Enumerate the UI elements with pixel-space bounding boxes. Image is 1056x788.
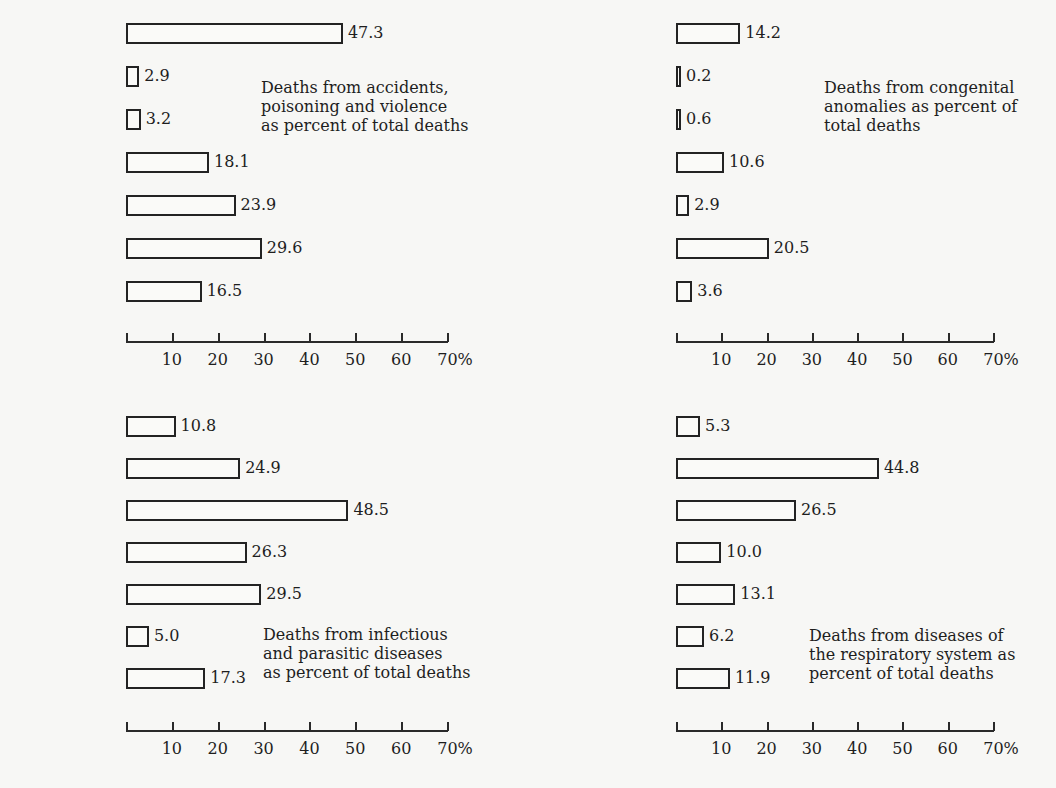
- x-axis-tick-label: 10: [711, 739, 731, 759]
- x-axis-tick: [264, 333, 266, 342]
- x-axis-tick: [355, 722, 357, 731]
- bar: [126, 416, 176, 437]
- x-axis-tick-label: 60: [938, 739, 958, 759]
- x-axis-tick-label: 10: [162, 739, 182, 759]
- x-axis-tick: [218, 333, 220, 342]
- bar-value-label: 3.2: [146, 109, 171, 129]
- caption-line: Deaths from accidents,: [261, 78, 469, 97]
- bar: [126, 152, 209, 173]
- bar: [126, 66, 139, 87]
- x-axis-tick-label: 50: [892, 350, 912, 370]
- bar: [676, 542, 721, 563]
- caption-line: total deaths: [824, 116, 1017, 135]
- bar-value-label: 26.3: [252, 542, 288, 562]
- x-axis-tick: [902, 722, 904, 731]
- bar-value-label: 0.6: [686, 109, 711, 129]
- x-axis-tick: [902, 333, 904, 342]
- x-axis-tick-label: 70%: [437, 350, 473, 370]
- x-axis-tick-label: 20: [756, 350, 776, 370]
- bar: [126, 668, 205, 689]
- bar: [676, 66, 681, 87]
- chart-caption: Deaths from infectiousand parasitic dise…: [263, 625, 471, 682]
- bar-value-label: 2.9: [144, 66, 169, 86]
- x-axis-tick: [218, 722, 220, 731]
- bar-value-label: 6.2: [709, 626, 734, 646]
- x-axis-tick: [401, 722, 403, 731]
- x-axis-tick: [767, 722, 769, 731]
- bar: [126, 542, 247, 563]
- bar-value-label: 29.5: [266, 584, 302, 604]
- x-axis-tick: [447, 722, 449, 731]
- bar-value-label: 5.3: [705, 416, 730, 436]
- x-axis-line: [676, 341, 994, 343]
- x-axis-tick: [676, 722, 678, 731]
- caption-line: the respiratory system as: [809, 645, 1015, 664]
- bar-value-label: 29.6: [267, 238, 303, 258]
- caption-line: as percent of total deaths: [261, 116, 469, 135]
- caption-line: anomalies as percent of: [824, 97, 1017, 116]
- caption-line: Deaths from congenital: [824, 78, 1017, 97]
- x-axis-tick-label: 30: [253, 350, 273, 370]
- x-axis-tick: [767, 333, 769, 342]
- x-axis-tick-label: 10: [162, 350, 182, 370]
- bar: [676, 458, 879, 479]
- chart-caption: Deaths from congenitalanomalies as perce…: [824, 78, 1017, 135]
- x-axis-tick: [812, 333, 814, 342]
- x-axis-tick-label: 70%: [983, 350, 1019, 370]
- x-axis-tick: [309, 333, 311, 342]
- bar-value-label: 17.3: [210, 668, 246, 688]
- x-axis-tick-label: 50: [892, 739, 912, 759]
- caption-line: percent of total deaths: [809, 664, 1015, 683]
- x-axis-tick: [857, 333, 859, 342]
- bar: [676, 152, 724, 173]
- x-axis-tick: [172, 722, 174, 731]
- x-axis-tick-label: 60: [391, 350, 411, 370]
- x-axis-tick: [993, 722, 995, 731]
- bar: [126, 500, 348, 521]
- x-axis-tick: [948, 333, 950, 342]
- caption-line: and parasitic diseases: [263, 644, 471, 663]
- x-axis-tick: [721, 722, 723, 731]
- x-axis-line: [126, 730, 448, 732]
- bar-value-label: 10.6: [729, 152, 765, 172]
- chart-caption: Deaths from accidents,poisoning and viol…: [261, 78, 469, 135]
- x-axis-tick: [309, 722, 311, 731]
- x-axis-tick-label: 70%: [983, 739, 1019, 759]
- bar: [676, 416, 700, 437]
- bar: [676, 500, 796, 521]
- x-axis-tick: [812, 722, 814, 731]
- bar-value-label: 20.5: [774, 238, 810, 258]
- x-axis-tick-label: 50: [345, 350, 365, 370]
- chart-caption: Deaths from diseases ofthe respiratory s…: [809, 626, 1015, 683]
- x-axis-tick-label: 50: [345, 739, 365, 759]
- x-axis-tick: [264, 722, 266, 731]
- bar-value-label: 16.5: [207, 281, 243, 301]
- x-axis-tick: [126, 333, 128, 342]
- bar-value-label: 3.6: [697, 281, 722, 301]
- bar: [676, 195, 689, 216]
- x-axis-tick-label: 40: [847, 739, 867, 759]
- x-axis-tick-label: 40: [299, 350, 319, 370]
- x-axis-tick: [948, 722, 950, 731]
- x-axis-tick: [993, 333, 995, 342]
- bar: [126, 281, 202, 302]
- bar: [126, 238, 262, 259]
- bar: [676, 626, 704, 647]
- caption-line: as percent of total deaths: [263, 663, 471, 682]
- x-axis-tick: [401, 333, 403, 342]
- x-axis-tick-label: 40: [847, 350, 867, 370]
- caption-line: poisoning and violence: [261, 97, 469, 116]
- bar: [676, 238, 769, 259]
- bar-value-label: 48.5: [353, 500, 389, 520]
- bar-value-label: 10.0: [726, 542, 762, 562]
- bar: [126, 584, 261, 605]
- bar: [126, 195, 236, 216]
- x-axis-tick: [355, 333, 357, 342]
- bar: [676, 584, 735, 605]
- bar-value-label: 26.5: [801, 500, 837, 520]
- x-axis-tick: [857, 722, 859, 731]
- x-axis-tick-label: 30: [802, 739, 822, 759]
- bar: [126, 458, 240, 479]
- x-axis-line: [126, 341, 448, 343]
- x-axis-tick-label: 20: [208, 739, 228, 759]
